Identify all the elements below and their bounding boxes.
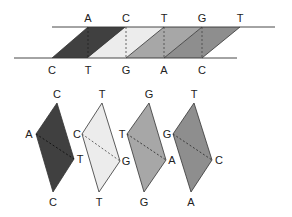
tile-unit-3: G T A G xyxy=(119,88,177,208)
bottom-label: C xyxy=(198,64,206,76)
top-label: T xyxy=(161,12,168,24)
unit-top-label: T xyxy=(99,88,106,100)
tile-unit-4: T G C A xyxy=(163,88,223,208)
unit-bottom-label: G xyxy=(140,196,149,208)
unit-right-label: G xyxy=(122,155,131,167)
unit-left-label: A xyxy=(25,128,33,140)
tile-unit-2: T C G T xyxy=(73,88,130,208)
unit-bottom-label: C xyxy=(49,196,57,208)
top-label: G xyxy=(198,12,207,24)
bottom-label: A xyxy=(160,64,168,76)
unit-right-label: T xyxy=(77,153,84,165)
tile-unit-1: C A T C xyxy=(25,88,83,208)
top-label: C xyxy=(122,12,130,24)
separate-tiles: C A T C T C G T G T A G T G C xyxy=(25,88,223,208)
bottom-label: C xyxy=(48,64,56,76)
assembled-strands: A C T G T C T G A C xyxy=(14,12,275,76)
unit-top-label: T xyxy=(191,88,198,100)
unit-right-label: A xyxy=(168,154,176,166)
unit-left-label: G xyxy=(163,128,172,140)
dna-tile-diagram: A C T G T C T G A C C A T C T C G T xyxy=(0,0,292,217)
unit-top-label: G xyxy=(145,88,154,100)
unit-left-label: T xyxy=(119,128,126,140)
bottom-label: T xyxy=(85,64,92,76)
unit-top-label: C xyxy=(53,88,61,100)
bottom-label: G xyxy=(122,64,131,76)
unit-bottom-label: A xyxy=(187,196,195,208)
unit-right-label: C xyxy=(215,154,223,166)
top-label: A xyxy=(84,12,92,24)
unit-left-label: C xyxy=(73,128,81,140)
unit-bottom-label: T xyxy=(96,196,103,208)
top-label: T xyxy=(237,12,244,24)
